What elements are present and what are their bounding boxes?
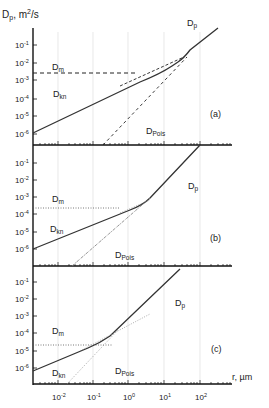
x-ticks xyxy=(40,141,230,384)
x-tick-labels: 10-2 10-1 100 101 102 xyxy=(52,392,207,402)
label-dpois-c: DPois xyxy=(115,366,135,377)
dpois-line-c xyxy=(67,330,118,384)
svg-text:10-4: 10-4 xyxy=(15,94,29,104)
dkn-extension-a xyxy=(120,57,184,86)
panel-label-b: (b) xyxy=(210,233,221,243)
label-dp-b: Dp xyxy=(188,181,199,193)
svg-text:10-6: 10-6 xyxy=(15,129,29,139)
dpois-line-a xyxy=(103,57,187,145)
label-dkn-a: Dkn xyxy=(53,89,67,100)
svg-text:10-3: 10-3 xyxy=(15,75,29,85)
svg-text:101: 101 xyxy=(159,392,171,402)
label-dkn-c: Dkn xyxy=(52,368,66,379)
label-dpois-b: DPois xyxy=(115,250,135,261)
x-axis-title: r, µm xyxy=(232,372,252,382)
svg-text:10-2: 10-2 xyxy=(15,58,29,68)
label-dm-c: Dm xyxy=(52,326,64,337)
gridlines xyxy=(58,32,200,384)
svg-text:10-5: 10-5 xyxy=(15,227,29,237)
y-axis-title: Dp, m2/s xyxy=(2,8,39,22)
panel-label-c: (c) xyxy=(211,344,222,354)
svg-text:100: 100 xyxy=(123,392,135,402)
svg-text:10-3: 10-3 xyxy=(15,192,29,202)
label-dm-a: Dm xyxy=(52,62,64,73)
svg-text:10-1: 10-1 xyxy=(15,277,29,287)
figure: Dp, m2/s 10-1 10-2 10-3 10-4 10-5 10-6 1… xyxy=(0,0,269,408)
label-dp-a: Dp xyxy=(187,18,198,30)
y-tick-labels-a: 10-1 10-2 10-3 10-4 10-5 10-6 xyxy=(15,40,29,139)
label-dm-b: Dm xyxy=(52,194,64,205)
panel-a-labels: Dm Dkn DPois Dp (a) xyxy=(52,18,221,137)
svg-text:10-6: 10-6 xyxy=(15,363,29,373)
label-dpois-a: DPois xyxy=(146,126,166,137)
label-dp-c: Dp xyxy=(175,298,186,310)
svg-text:10-3: 10-3 xyxy=(15,311,29,321)
svg-text:10-5: 10-5 xyxy=(15,111,29,121)
svg-text:10-4: 10-4 xyxy=(15,328,29,338)
panel-b-labels: Dm Dkn DPois Dp (b) xyxy=(50,181,221,261)
svg-text:10-2: 10-2 xyxy=(15,294,29,304)
svg-text:10-1: 10-1 xyxy=(15,158,29,168)
svg-text:10-2: 10-2 xyxy=(15,175,29,185)
y-tick-labels-c: 10-1 10-2 10-3 10-4 10-5 10-6 xyxy=(15,277,29,373)
label-dkn-b: Dkn xyxy=(50,224,64,235)
svg-text:10-1: 10-1 xyxy=(15,40,29,50)
svg-text:10-5: 10-5 xyxy=(15,346,29,356)
svg-text:10-1: 10-1 xyxy=(87,392,101,402)
svg-text:10-4: 10-4 xyxy=(15,209,29,219)
y-tick-labels-b: 10-1 10-2 10-3 10-4 10-5 10-6 xyxy=(15,158,29,254)
panel-label-a: (a) xyxy=(210,109,221,119)
svg-text:10-6: 10-6 xyxy=(15,244,29,254)
dkn-extension-b xyxy=(120,200,150,213)
dkn-extension-c xyxy=(80,314,150,351)
svg-text:10-2: 10-2 xyxy=(52,392,66,402)
dp-line-a xyxy=(178,28,218,62)
svg-text:102: 102 xyxy=(195,392,207,402)
panel-a-curves xyxy=(33,28,218,145)
dp-line-c xyxy=(33,269,180,371)
